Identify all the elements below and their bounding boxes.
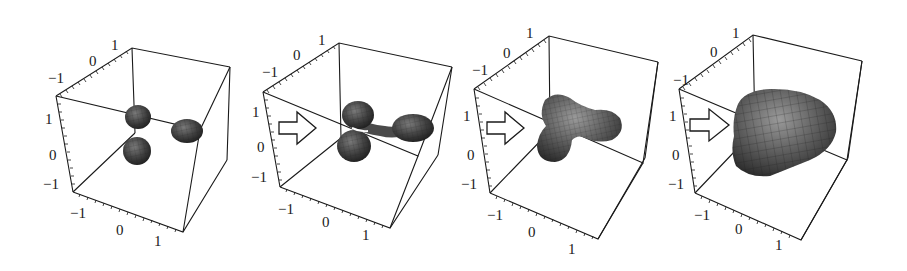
svg-text:−1: −1	[472, 62, 488, 78]
isosurface-lobes	[123, 105, 203, 165]
panel-1: −1 0 1 1 0 −1 −1 0 1	[43, 37, 230, 249]
svg-text:−1: −1	[48, 70, 64, 86]
svg-text:1: 1	[775, 237, 783, 253]
svg-text:0: 0	[528, 224, 536, 240]
svg-text:−1: −1	[70, 205, 86, 221]
transition-arrow-icon	[279, 112, 316, 144]
svg-text:1: 1	[669, 108, 677, 124]
svg-text:1: 1	[252, 104, 260, 120]
svg-text:0: 0	[116, 222, 124, 238]
svg-text:0: 0	[735, 221, 743, 237]
svg-text:0: 0	[672, 147, 680, 163]
svg-text:1: 1	[732, 25, 740, 41]
svg-text:−1: −1	[673, 72, 689, 88]
isosurface-sequence-figure: −1 0 1 1 0 −1 −1 0 1	[0, 0, 907, 271]
svg-text:1: 1	[362, 227, 370, 243]
transition-arrow-icon	[690, 109, 729, 141]
svg-text:0: 0	[467, 147, 475, 163]
panel-3: −1 0 1 1 0 −1 −1 0 1	[461, 25, 658, 257]
svg-text:0: 0	[503, 45, 511, 61]
svg-text:−1: −1	[43, 176, 59, 192]
isosurface-three-lobed	[537, 94, 622, 162]
svg-text:−1: −1	[668, 176, 684, 192]
svg-text:−1: −1	[251, 169, 267, 185]
svg-text:1: 1	[568, 241, 576, 257]
svg-text:−1: −1	[262, 64, 278, 80]
svg-text:0: 0	[89, 53, 97, 69]
svg-text:−1: −1	[278, 201, 294, 217]
svg-text:0: 0	[293, 47, 301, 63]
svg-text:0: 0	[49, 147, 57, 163]
svg-text:0: 0	[257, 139, 265, 155]
svg-text:1: 1	[463, 108, 471, 124]
svg-text:0: 0	[322, 214, 330, 230]
svg-text:−1: −1	[487, 207, 503, 223]
svg-text:1: 1	[45, 111, 53, 127]
svg-text:1: 1	[154, 233, 162, 249]
svg-text:0: 0	[710, 44, 718, 60]
svg-text:−1: −1	[694, 207, 710, 223]
svg-text:1: 1	[111, 37, 119, 53]
transition-arrow-icon	[487, 112, 524, 144]
svg-text:1: 1	[318, 32, 326, 48]
panel-4: −1 0 1 1 0 −1 −1 0 1	[668, 25, 862, 253]
svg-text:−1: −1	[461, 176, 477, 192]
svg-text:1: 1	[526, 25, 534, 41]
panel-2: −1 0 1 1 0 −1 −1 0 1	[251, 32, 452, 243]
isosurface-merged-body	[732, 89, 836, 176]
